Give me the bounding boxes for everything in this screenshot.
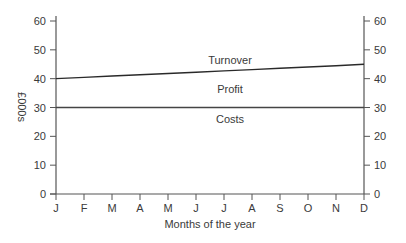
right-y-tick-label: 20 xyxy=(374,130,386,142)
turnover-label: Turnover xyxy=(208,54,252,66)
x-tick-label: J xyxy=(193,202,199,214)
right-y-tick-label: 50 xyxy=(374,44,386,56)
costs-label: Costs xyxy=(216,113,245,125)
right-y-tick-label: 30 xyxy=(374,102,386,114)
right-y-tick-label: 40 xyxy=(374,73,386,85)
profit-label: Profit xyxy=(217,83,243,95)
left-y-tick-label: 30 xyxy=(34,102,46,114)
left-y-tick-label: 0 xyxy=(40,188,46,200)
x-tick-label: J xyxy=(221,202,227,214)
x-tick-label: M xyxy=(163,202,172,214)
left-y-tick-label: 60 xyxy=(34,15,46,27)
chart-axes: 00101020203030404050506060JFMAMJJASOND xyxy=(34,15,387,214)
x-tick-label: F xyxy=(81,202,88,214)
left-y-tick-label: 20 xyxy=(34,130,46,142)
x-tick-label: O xyxy=(304,202,313,214)
left-y-tick-label: 40 xyxy=(34,73,46,85)
right-y-tick-label: 0 xyxy=(374,188,380,200)
x-tick-label: M xyxy=(107,202,116,214)
x-tick-label: N xyxy=(332,202,340,214)
left-y-tick-label: 50 xyxy=(34,44,46,56)
left-y-tick-label: 10 xyxy=(34,159,46,171)
chart-series xyxy=(56,64,364,107)
x-tick-label: A xyxy=(136,202,144,214)
right-y-tick-label: 60 xyxy=(374,15,386,27)
x-tick-label: A xyxy=(248,202,256,214)
y-axis-title: £000s xyxy=(16,92,28,122)
right-y-tick-label: 10 xyxy=(374,159,386,171)
x-tick-label: D xyxy=(360,202,368,214)
x-axis-title: Months of the year xyxy=(164,218,255,230)
line-chart: 00101020203030404050506060JFMAMJJASOND T… xyxy=(0,0,406,243)
x-tick-label: S xyxy=(276,202,283,214)
x-tick-label: J xyxy=(53,202,59,214)
turnover-line xyxy=(56,64,364,78)
